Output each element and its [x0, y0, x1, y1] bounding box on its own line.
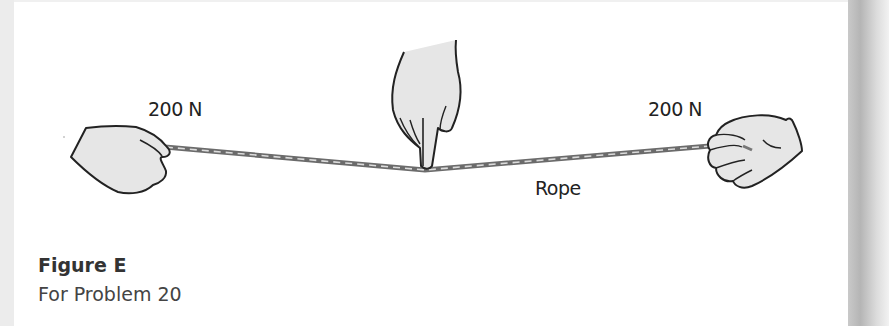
right-hand-icon: [708, 115, 802, 187]
rope-label: Rope: [535, 177, 581, 199]
right-force-label: 200 N: [648, 98, 702, 120]
figure-title: Figure E: [38, 254, 126, 276]
figure-subtitle: For Problem 20: [38, 283, 182, 305]
left-hand-icon: [71, 126, 170, 193]
left-force-label: 200 N: [148, 98, 202, 120]
pointing-hand-icon: [392, 40, 460, 169]
rope-diagram: [0, 0, 889, 326]
